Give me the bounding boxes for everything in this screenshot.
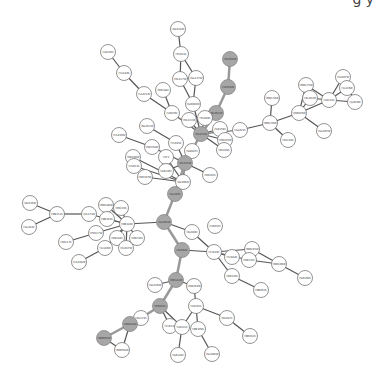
graph-node[interactable]: YDR188C bbox=[156, 83, 171, 98]
node-label: YMR109C bbox=[192, 328, 205, 331]
graph-node[interactable]: YLR026W bbox=[221, 80, 236, 95]
node-label: YIL140W bbox=[99, 247, 111, 250]
node-label: YEL017W bbox=[120, 247, 133, 250]
graph-node[interactable]: YGR109C bbox=[298, 271, 313, 286]
graph-node[interactable]: YJL020W bbox=[348, 95, 363, 110]
graph-node[interactable]: YFL084C bbox=[225, 250, 240, 265]
graph-node[interactable]: YOR197W bbox=[138, 170, 153, 185]
graph-node[interactable]: YOR158W bbox=[145, 140, 160, 155]
graph-node[interactable]: YKL173W bbox=[82, 207, 97, 222]
graph-node[interactable]: YHR052C bbox=[208, 219, 223, 234]
graph-node[interactable]: YHL180C bbox=[117, 66, 132, 81]
graph-node[interactable]: YMR111C bbox=[50, 207, 65, 222]
graph-node[interactable]: YDR329C bbox=[225, 269, 240, 284]
graph-node[interactable]: YOL012C bbox=[220, 311, 235, 326]
graph-node[interactable]: YNL022W bbox=[140, 119, 155, 134]
graph-node[interactable]: YGL092W bbox=[157, 215, 172, 230]
node-label: YGR109C bbox=[299, 277, 311, 280]
graph-node[interactable]: YLR421C bbox=[175, 320, 190, 335]
graph-node[interactable]: YAL023W bbox=[194, 127, 209, 142]
graph-node[interactable]: YOR102C bbox=[203, 168, 218, 183]
graph-node[interactable]: YMR186C bbox=[120, 217, 135, 232]
graph-node[interactable]: YDR264W bbox=[187, 279, 202, 294]
graph-node[interactable]: YBR026C bbox=[153, 299, 168, 314]
graph-node[interactable]: YLR362C bbox=[189, 299, 204, 314]
graph-node[interactable]: YMR109C bbox=[191, 322, 206, 337]
node-label: YAL023W bbox=[195, 133, 208, 136]
graph-node[interactable]: YGL137W bbox=[189, 71, 204, 86]
graph-node[interactable]: YLR310C bbox=[101, 45, 116, 60]
graph-node[interactable]: YPL049C bbox=[198, 111, 213, 126]
graph-node[interactable]: YOR181W bbox=[169, 273, 184, 288]
graph-node[interactable]: YLR079C bbox=[165, 106, 180, 121]
node-label: YJL020W bbox=[349, 101, 361, 104]
graph-node[interactable]: YFL045C bbox=[169, 136, 184, 151]
node-label: YOR230C bbox=[131, 237, 143, 240]
graph-node[interactable]: YGL002W bbox=[317, 124, 332, 139]
graph-node[interactable]: YBL102W bbox=[303, 91, 318, 106]
graph-node[interactable]: YDR188W bbox=[123, 317, 138, 332]
node-label: YHL023C bbox=[128, 165, 140, 168]
graph-node[interactable]: YDR039W bbox=[292, 106, 307, 121]
graph-node[interactable]: YLR121C bbox=[322, 93, 337, 108]
graph-node[interactable]: YOL117W bbox=[173, 72, 188, 87]
node-label: YGR040W bbox=[187, 103, 200, 106]
graph-node[interactable]: YER117C bbox=[59, 235, 74, 250]
graph-node[interactable]: YHL039W bbox=[112, 128, 127, 143]
graph-node[interactable]: YOR232C bbox=[242, 253, 257, 268]
graph-node[interactable]: YEF3 bbox=[159, 150, 174, 165]
graph-node[interactable]: YPL031C bbox=[174, 47, 189, 62]
graph-node[interactable]: YOR230C bbox=[130, 231, 145, 246]
node-label: YBL102W bbox=[304, 97, 317, 100]
graph-node[interactable]: YOL133W bbox=[182, 113, 197, 128]
graph-node[interactable]: YDL022W bbox=[178, 156, 193, 171]
graph-node[interactable]: YGL066W bbox=[205, 347, 220, 362]
graph-node[interactable]: YAL040C bbox=[185, 225, 200, 240]
graph-node[interactable]: YIL140W bbox=[98, 241, 113, 256]
node-label: YOR197W bbox=[139, 176, 152, 179]
node-label: YOL117W bbox=[174, 78, 187, 81]
graph-node[interactable]: YMR178W bbox=[265, 91, 280, 106]
node-label: YGR159C bbox=[214, 128, 226, 131]
graph-node[interactable]: YMR186W bbox=[99, 198, 114, 213]
graph-node[interactable]: YPR120C bbox=[114, 201, 129, 216]
node-label: YFL013C bbox=[164, 325, 175, 328]
graph-node[interactable]: YGR144C bbox=[171, 348, 186, 363]
graph-canvas: YAL024WYPL031CYOL117WYGL137WYGR040WYOL05… bbox=[0, 0, 384, 382]
graph-node[interactable]: YGL195C bbox=[168, 187, 183, 202]
graph-node[interactable]: YJL129W bbox=[340, 81, 355, 96]
graph-node[interactable]: YMR092W bbox=[97, 331, 112, 346]
graph-node[interactable]: YAL024W bbox=[171, 22, 186, 37]
graph-node[interactable]: YOL050W bbox=[223, 52, 238, 67]
graph-node[interactable]: YGL022C bbox=[233, 123, 248, 138]
node-label: YPR120C bbox=[115, 207, 127, 210]
node-label: YBR026C bbox=[154, 305, 166, 308]
node-label: YMR179W bbox=[263, 122, 277, 125]
graph-node[interactable]: YGL039W bbox=[148, 278, 163, 293]
graph-node[interactable]: YGR246C bbox=[159, 164, 174, 179]
graph-node[interactable]: YLL021W bbox=[137, 87, 152, 102]
graph-node[interactable]: YHL023C bbox=[127, 159, 142, 174]
graph-node[interactable]: YMR163C bbox=[100, 212, 115, 227]
node-label: YMR186W bbox=[99, 204, 113, 207]
graph-node[interactable]: YMR031C bbox=[243, 329, 258, 344]
graph-node[interactable]: YFL039C bbox=[207, 245, 222, 260]
graph-node[interactable]: YAL026W bbox=[23, 196, 38, 211]
graph-node[interactable]: YMR179W bbox=[263, 116, 278, 131]
node-label: YOR232C bbox=[243, 259, 255, 262]
graph-node[interactable]: YMR109W bbox=[272, 257, 287, 272]
graph-node[interactable]: YMR058W bbox=[115, 343, 130, 358]
graph-node[interactable]: YGR040W bbox=[186, 97, 201, 112]
graph-node[interactable]: YHL038W bbox=[72, 255, 87, 270]
graph-node[interactable]: YMR052C bbox=[254, 283, 269, 298]
node-label: YLR079C bbox=[166, 112, 178, 115]
node-label: YER117C bbox=[60, 241, 72, 244]
node-label: YLR026W bbox=[222, 86, 235, 89]
graph-node[interactable]: YDL140C bbox=[281, 133, 296, 148]
node-label: YHL039W bbox=[113, 134, 126, 137]
graph-node[interactable]: YGL161C bbox=[22, 220, 37, 235]
graph-node[interactable]: YBL010C bbox=[217, 143, 232, 158]
graph-node[interactable]: YPR117W bbox=[89, 226, 104, 241]
node-label: YDR329C bbox=[226, 275, 238, 278]
graph-node[interactable]: YDL088C bbox=[175, 243, 190, 258]
